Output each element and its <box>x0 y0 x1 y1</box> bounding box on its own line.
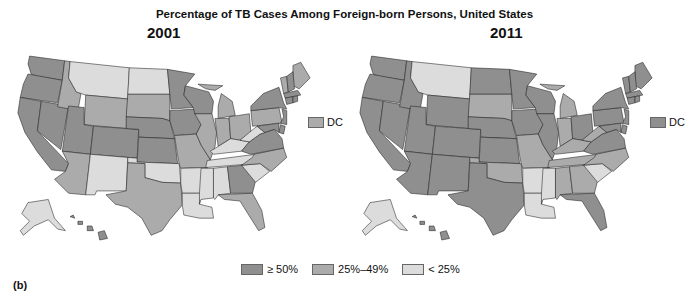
legend-label: < 25% <box>428 263 460 275</box>
legend-swatch <box>402 264 424 275</box>
state-ms <box>199 168 213 204</box>
state-fl <box>218 193 265 230</box>
dc-swatch-2001 <box>308 117 324 128</box>
legend-item-mid: 25%–49% <box>312 263 388 275</box>
legend-swatch <box>241 264 263 275</box>
state-co <box>432 126 480 158</box>
state-ct <box>627 97 635 105</box>
state-ct <box>285 97 293 105</box>
state-hi <box>70 215 107 240</box>
state-co <box>90 126 138 158</box>
state-ms <box>541 168 555 204</box>
dc-legend-2001: DC <box>308 116 343 128</box>
state-nj <box>622 109 628 125</box>
state-wy <box>84 95 128 129</box>
state-nj <box>280 109 286 125</box>
state-ak <box>362 199 407 235</box>
state-ak <box>20 199 65 235</box>
dc-legend-2011: DC <box>650 116 685 128</box>
panel-label: (b) <box>13 279 27 291</box>
state-de <box>621 125 627 134</box>
state-nd <box>470 68 512 94</box>
state-nd <box>128 68 170 94</box>
state-ri <box>293 96 298 103</box>
year-label-2011: 2011 <box>490 24 523 41</box>
state-ks <box>137 137 178 163</box>
state-de <box>279 125 285 134</box>
map-2011 <box>356 40 656 264</box>
state-fl <box>560 193 607 230</box>
state-me <box>635 62 652 88</box>
legend: ≥ 50% 25%–49% < 25% <box>241 263 460 275</box>
legend-label: 25%–49% <box>338 263 388 275</box>
legend-item-high: ≥ 50% <box>241 263 298 275</box>
dc-swatch-2011 <box>650 117 666 128</box>
state-sd <box>126 94 170 120</box>
dc-label: DC <box>327 116 343 128</box>
legend-label: ≥ 50% <box>267 263 298 275</box>
state-ri <box>635 96 640 103</box>
dc-label: DC <box>669 116 685 128</box>
legend-item-low: < 25% <box>402 263 460 275</box>
state-me <box>293 62 310 88</box>
state-sd <box>468 94 512 120</box>
state-ny <box>593 87 629 110</box>
chart-title: Percentage of TB Cases Among Foreign-bor… <box>0 8 689 20</box>
state-ny <box>251 87 287 110</box>
state-hi <box>412 215 449 240</box>
state-ks <box>479 137 520 163</box>
state-nh <box>629 72 637 92</box>
state-wy <box>426 95 470 129</box>
state-nh <box>287 72 295 92</box>
state-nm <box>86 154 128 195</box>
legend-swatch <box>312 264 334 275</box>
map-2001 <box>14 40 314 264</box>
state-nm <box>428 154 470 195</box>
year-label-2001: 2001 <box>147 24 180 41</box>
